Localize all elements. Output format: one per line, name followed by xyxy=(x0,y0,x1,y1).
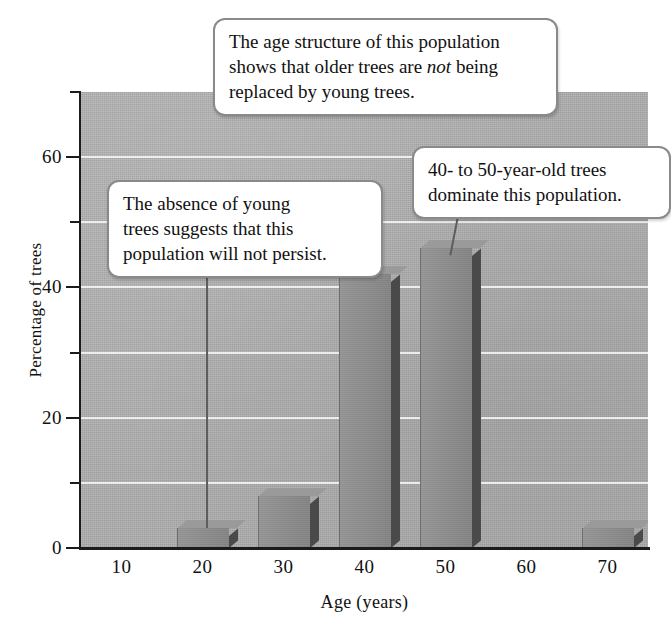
x-tick-label-10: 10 xyxy=(92,556,152,578)
x-tick-label-30: 30 xyxy=(254,556,314,578)
y-tick-major-0 xyxy=(66,547,81,549)
callout-text-emphasis: not xyxy=(427,56,451,77)
callout-line: 40- to 50-year-old trees xyxy=(428,157,655,182)
callout-line: trees suggests that this xyxy=(123,216,367,241)
bar-age-40 xyxy=(339,274,390,548)
bar-top-face xyxy=(178,520,246,528)
bar-side-face xyxy=(229,529,238,548)
bar-top-face xyxy=(583,520,648,528)
callout-line: shows that older trees are not being xyxy=(229,54,542,79)
y-axis-title: Percentage of trees xyxy=(26,180,46,440)
callout-text-a: shows that older trees are xyxy=(229,56,427,77)
leader-line-left-callout xyxy=(206,272,208,528)
bar-age-50 xyxy=(420,248,471,548)
x-tick-label-70: 70 xyxy=(578,556,638,578)
x-axis-line xyxy=(79,547,650,550)
y-tick-major-40 xyxy=(66,286,81,288)
bar-side-face xyxy=(391,275,400,548)
y-tick-minor-30 xyxy=(70,352,81,354)
y-tick-minor-10 xyxy=(70,482,81,484)
bar-top-face xyxy=(421,240,489,248)
x-tick-label-20: 20 xyxy=(173,556,233,578)
annotation-callout-dominant-age-class: 40- to 50-year-old trees dominate this p… xyxy=(412,146,671,219)
annotation-callout-age-structure: The age structure of this population sho… xyxy=(213,18,558,116)
annotation-callout-absence-of-young-trees: The absence of young trees suggests that… xyxy=(107,180,383,278)
y-tick-label-0: 0 xyxy=(16,538,62,557)
y-tick-major-60 xyxy=(66,156,81,158)
bar-age-70 xyxy=(582,528,633,548)
y-tick-major-20 xyxy=(66,417,81,419)
bar-top-face xyxy=(259,488,327,496)
callout-text-b: being xyxy=(451,56,498,77)
bar-side-face xyxy=(310,496,319,548)
callout-line: The age structure of this population xyxy=(229,29,542,54)
x-axis-title: Age (years) xyxy=(81,592,648,613)
y-tick-minor-50 xyxy=(70,221,81,223)
bar-age-20 xyxy=(177,528,228,548)
callout-line: population will not persist. xyxy=(123,241,367,266)
y-tick-label-60: 60 xyxy=(16,147,62,166)
callout-line: dominate this population. xyxy=(428,182,655,207)
x-tick-label-60: 60 xyxy=(497,556,557,578)
bar-age-30 xyxy=(258,496,309,548)
bar-side-face xyxy=(634,529,643,548)
callout-line: replaced by young trees. xyxy=(229,79,542,104)
callout-line: The absence of young xyxy=(123,191,367,216)
x-tick-label-40: 40 xyxy=(335,556,395,578)
bar-side-face xyxy=(472,249,481,548)
y-tick-minor-70 xyxy=(70,91,81,93)
x-tick-label-50: 50 xyxy=(416,556,476,578)
